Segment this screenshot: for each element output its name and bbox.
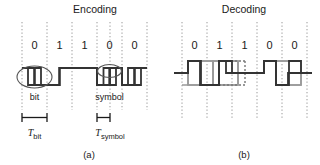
bit-boundary-gridlines-encoding xyxy=(22,22,147,110)
subcaption-b: (b) xyxy=(238,149,250,160)
t-symbol-subscript: symbol xyxy=(101,132,125,141)
bit-callout-label: bit xyxy=(30,92,40,102)
t-bit-subscript: bit xyxy=(33,132,42,141)
encoded-waveform-final xyxy=(22,68,147,85)
t-bit-label: Tbit xyxy=(28,127,42,141)
bit-label: 0 xyxy=(191,39,197,51)
t-symbol-measure xyxy=(97,113,110,122)
bit-label: 0 xyxy=(266,39,272,51)
bit-label: 1 xyxy=(56,39,62,51)
bit-label: 1 xyxy=(241,39,247,51)
bit-label: 1 xyxy=(81,39,87,51)
bit-label: 0 xyxy=(291,39,297,51)
panel-title-encoding: Encoding xyxy=(73,3,117,15)
symbol-callout-label: symbol xyxy=(95,92,124,102)
t-bit-measure xyxy=(22,113,47,122)
bit-label: 0 xyxy=(106,39,112,51)
t-symbol-label: Tsymbol xyxy=(95,127,125,141)
subcaption-a: (a) xyxy=(83,149,95,160)
figure-root: Encoding 0 1 1 0 0 xyxy=(0,0,320,165)
panel-encoding: Encoding 0 1 1 0 0 xyxy=(17,3,147,160)
bit-label: 1 xyxy=(216,39,222,51)
bit-label: 0 xyxy=(31,39,37,51)
figure-svg: Encoding 0 1 1 0 0 xyxy=(0,0,320,165)
panel-title-decoding: Decoding xyxy=(222,3,267,15)
bit-label: 0 xyxy=(131,39,137,51)
panel-decoding: Decoding 0 1 1 0 0 xyxy=(174,3,312,160)
